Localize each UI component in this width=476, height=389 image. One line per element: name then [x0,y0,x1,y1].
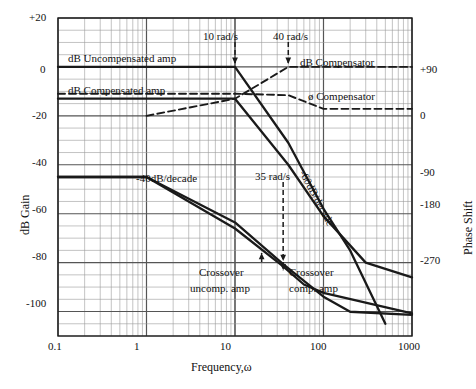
label-db-compensator: dB Compensator [300,56,374,68]
y-right-tick-1: 0 [420,109,426,121]
x-tick-3: 100 [310,340,327,352]
label-w40: 40 rad/s [273,30,308,42]
x-axis-title: Frequency,ω [191,360,252,375]
y-left-tick-3: -40 [32,156,47,168]
x-tick-0: 0.1 [48,340,62,352]
y-left-tick-1: 0 [40,63,46,75]
label-db-compensated: dB Compensated amp [68,84,165,96]
y-left-tick-4: -60 [32,203,47,215]
y-right-tick-0: +90 [420,63,437,75]
x-tick-2: 10 [220,340,231,352]
y-left-tick-6: -100 [26,297,46,309]
label-w35: 35 rad/s [255,170,290,182]
label-crossover-comp-1: Crossover [289,266,334,278]
y-right-tick-3: -180 [420,198,440,210]
label-w10: 10 rad/s [203,30,238,42]
y-right-tick-2: -90 [420,166,435,178]
label-slope-40: -40dB/decade [136,172,197,184]
y-right-axis-title: Phase Shift [461,201,476,255]
y-left-tick-0: +20 [29,11,46,23]
y-right-tick-4: -270 [420,254,440,266]
y-left-tick-2: -20 [32,109,47,121]
x-tick-1: 1 [134,340,140,352]
label-crossover-uncomp-1: Crossover [199,266,244,278]
x-tick-4: 1000 [398,340,420,352]
label-db-uncompensated: dB Uncompensated amp [68,52,176,64]
label-phi-compensator: ø Compensator [308,90,375,102]
label-crossover-uncomp-2: uncomp. amp [190,282,250,294]
y-left-axis-title: dB Gain [18,195,33,235]
label-crossover-comp-2: comp. amp [289,282,338,294]
y-left-tick-5: -80 [32,250,47,262]
